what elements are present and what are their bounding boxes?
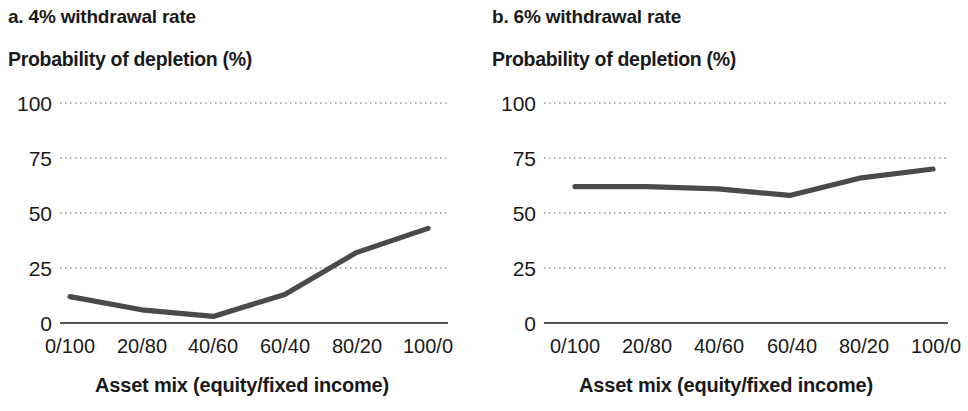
panel-a-xtick-0: 0/100 bbox=[45, 336, 95, 356]
panel-a-x-axis-title: Asset mix (equity/fixed income) bbox=[0, 374, 484, 397]
panel-b-xtick-2: 40/60 bbox=[694, 336, 744, 356]
panel-b-plot-area: 100 75 50 25 0 0/100 20/80 40/60 60/40 8… bbox=[484, 0, 968, 411]
panel-b-xtick-0: 0/100 bbox=[550, 336, 600, 356]
panel-b-xtick-4: 80/20 bbox=[839, 336, 889, 356]
panel-b-data-line bbox=[575, 169, 933, 195]
panel-b: b. 6% withdrawal rate Probability of dep… bbox=[484, 0, 968, 411]
panel-a-xtick-5: 100/0 bbox=[403, 336, 453, 356]
panel-b-xtick-5: 100/0 bbox=[911, 336, 961, 356]
panel-a: a. 4% withdrawal rate Probability of dep… bbox=[0, 0, 484, 411]
panel-a-xtick-3: 60/40 bbox=[260, 336, 310, 356]
panel-b-x-axis-title: Asset mix (equity/fixed income) bbox=[484, 374, 968, 397]
panel-a-data-line bbox=[70, 228, 428, 316]
panel-a-xtick-2: 40/60 bbox=[188, 336, 238, 356]
panel-a-plot-area: 100 75 50 25 0 0/100 20/80 40/60 60/40 bbox=[0, 0, 484, 411]
panel-b-xtick-3: 60/40 bbox=[767, 336, 817, 356]
panel-a-xtick-1: 20/80 bbox=[117, 336, 167, 356]
panel-b-xtick-1: 20/80 bbox=[622, 336, 672, 356]
figure: a. 4% withdrawal rate Probability of dep… bbox=[0, 0, 968, 411]
panel-a-xtick-4: 80/20 bbox=[332, 336, 382, 356]
